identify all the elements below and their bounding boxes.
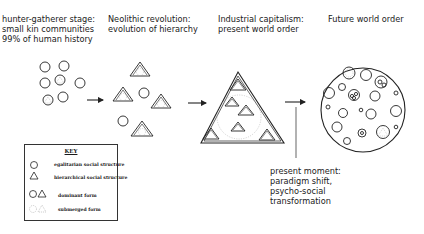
legend-key: KEY egalitarian social structure hierarc… [24,144,118,221]
dashed-shapes-icon [30,205,47,213]
hunter-gatherer-circles [40,61,85,105]
triangle-icon [38,190,46,197]
key-label-hierarchical: hierarchical social structure [54,175,127,180]
circle-icon [30,191,37,198]
triangle-icon [30,172,38,179]
circle-icon [31,162,38,169]
neolithic-shapes [113,62,171,136]
key-label-dominant: dominant form [58,193,97,198]
key-label-egalitarian: egalitarian social structure [54,162,124,167]
key-label-submerged: submerged form [58,207,101,212]
industrial-pyramid [201,72,284,143]
future-world-circle [321,67,405,152]
